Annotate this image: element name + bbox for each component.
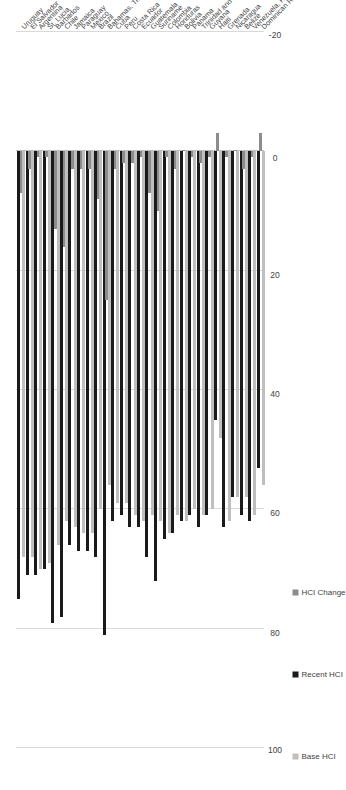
bar-base-hci xyxy=(262,151,265,485)
bar-group xyxy=(170,32,179,748)
bar-recent-hci xyxy=(86,151,89,551)
bar-hci-change xyxy=(216,133,219,151)
axis-tick-label: 80 xyxy=(270,628,279,638)
bar-group xyxy=(102,32,111,748)
bar-group xyxy=(255,32,264,748)
axis-tick-label: 60 xyxy=(270,509,279,519)
bar-group xyxy=(110,32,119,748)
bar-group xyxy=(59,32,68,748)
bar-group xyxy=(136,32,145,748)
bar-recent-hci xyxy=(248,151,251,521)
bar-recent-hci xyxy=(240,151,243,515)
bar-recent-hci xyxy=(128,151,131,527)
bar-group xyxy=(213,32,222,748)
legend-item[interactable]: HCI Change xyxy=(293,588,346,597)
bar-recent-hci xyxy=(197,151,200,527)
bar-recent-hci xyxy=(17,151,20,599)
legend-swatch-icon xyxy=(293,671,299,677)
bar-group xyxy=(76,32,85,748)
bar-recent-hci xyxy=(231,151,234,497)
bar-recent-hci xyxy=(120,151,123,515)
legend-item[interactable]: Recent HCI xyxy=(293,670,343,679)
axis-tick-label: 0 xyxy=(273,153,278,163)
bar-group xyxy=(196,32,205,748)
bar-recent-hci xyxy=(171,151,174,533)
axis-tick-label: -20 xyxy=(269,30,281,40)
legend-swatch-icon xyxy=(293,589,299,595)
bar-group xyxy=(144,32,153,748)
bar-group xyxy=(187,32,196,748)
category-label: Dominican Republic xyxy=(259,0,311,31)
bar-group xyxy=(16,32,25,748)
bar-group xyxy=(25,32,34,748)
plot-area xyxy=(16,32,264,748)
bar-recent-hci xyxy=(205,151,208,515)
bar-group xyxy=(247,32,256,748)
axis-tick-label: 40 xyxy=(270,389,279,399)
bar-group xyxy=(204,32,213,748)
bar-group xyxy=(93,32,102,748)
bar-recent-hci xyxy=(163,151,166,539)
bar-group xyxy=(33,32,42,748)
bar-recent-hci xyxy=(26,151,29,575)
bar-group xyxy=(238,32,247,748)
bar-recent-hci xyxy=(77,151,80,551)
bar-group xyxy=(230,32,239,748)
legend-label: Recent HCI xyxy=(302,670,343,679)
bar-hci-change xyxy=(259,133,262,151)
bar-recent-hci xyxy=(43,151,46,569)
bar-group xyxy=(221,32,230,748)
bar-group xyxy=(127,32,136,748)
bar-group xyxy=(119,32,128,748)
bar-group xyxy=(42,32,51,748)
bar-recent-hci xyxy=(180,151,183,521)
bar-recent-hci xyxy=(34,151,37,575)
bar-recent-hci xyxy=(145,151,148,557)
axis-tick-label: 100 xyxy=(268,745,282,755)
axis-tick-label: 20 xyxy=(270,270,279,280)
bar-group xyxy=(67,32,76,748)
legend-label: HCI Change xyxy=(302,588,346,597)
bar-group xyxy=(161,32,170,748)
bar-group xyxy=(153,32,162,748)
bar-recent-hci xyxy=(94,151,97,557)
chart-legend: Base HCIRecent HCIHCI Change xyxy=(288,356,318,756)
bar-recent-hci xyxy=(137,151,140,527)
bar-recent-hci xyxy=(257,151,260,467)
bar-recent-hci xyxy=(111,151,114,521)
bar-recent-hci xyxy=(214,151,217,420)
bar-recent-hci xyxy=(68,151,71,545)
bar-recent-hci xyxy=(154,151,157,581)
bar-recent-hci xyxy=(188,151,191,515)
legend-label: Base HCI xyxy=(302,752,336,761)
bar-group xyxy=(84,32,93,748)
bar-group xyxy=(50,32,59,748)
legend-item[interactable]: Base HCI xyxy=(293,752,336,761)
bar-recent-hci xyxy=(222,151,225,527)
bar-group xyxy=(178,32,187,748)
legend-swatch-icon xyxy=(293,753,299,759)
